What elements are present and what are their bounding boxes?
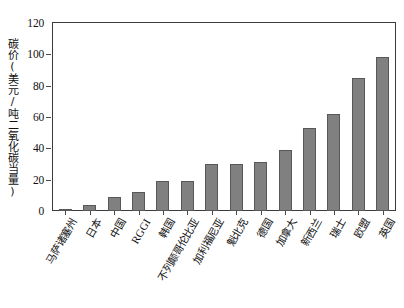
y-tick-mark	[46, 148, 51, 149]
x-tick-label: RGGI	[129, 217, 152, 246]
x-tick-label: 新西兰	[299, 217, 323, 248]
x-tick-mark	[310, 211, 311, 215]
bars-layer	[53, 23, 395, 211]
y-tick-mark	[46, 117, 51, 118]
x-tick-mark	[90, 211, 91, 215]
y-tick-label: 100	[27, 48, 44, 60]
x-tick-mark	[163, 211, 164, 215]
bar	[254, 162, 267, 211]
bar	[156, 181, 169, 211]
x-tick-mark	[139, 211, 140, 215]
y-axis-ticks: 020406080100120	[0, 0, 52, 308]
x-tick-mark	[383, 211, 384, 215]
x-tick-label: 中国	[108, 217, 127, 240]
x-tick-label: 魁北克	[225, 217, 249, 248]
x-tick-mark	[261, 211, 262, 215]
y-tick-mark	[46, 180, 51, 181]
x-tick-label: 英国	[377, 217, 396, 240]
y-tick-label: 40	[33, 142, 44, 154]
x-axis-labels: 马萨诸塞州日本中国RGGI韩国不列颠哥伦比亚加利福尼亚魁北克德国加拿大新西兰瑞士…	[53, 211, 395, 308]
x-tick-mark	[358, 211, 359, 215]
bar-chart: 碳价(美元/吨二氧化碳当量) 020406080100120 马萨诸塞州日本中国…	[0, 0, 404, 308]
bar	[132, 192, 145, 211]
y-tick-label: 80	[33, 80, 44, 92]
x-tick-label: 韩国	[157, 217, 176, 240]
y-tick-mark	[46, 54, 51, 55]
x-tick-mark	[65, 211, 66, 215]
x-tick-label: 加拿大	[274, 217, 298, 248]
y-tick-label: 120	[27, 17, 44, 29]
y-tick-label: 60	[33, 111, 44, 123]
bar	[352, 78, 365, 211]
y-tick-label: 20	[33, 174, 44, 186]
bar	[376, 57, 389, 211]
x-tick-mark	[114, 211, 115, 215]
bar	[108, 197, 121, 211]
x-tick-mark	[334, 211, 335, 215]
bar	[230, 164, 243, 211]
y-tick-mark	[46, 86, 51, 87]
bar	[205, 164, 218, 211]
x-tick-mark	[187, 211, 188, 215]
bar	[279, 150, 292, 211]
x-tick-mark	[212, 211, 213, 215]
x-tick-label: 日本	[84, 217, 103, 240]
x-tick-label: 德国	[255, 217, 274, 240]
x-tick-mark	[285, 211, 286, 215]
bar	[181, 181, 194, 211]
bar	[327, 114, 340, 211]
x-tick-label: 瑞士	[328, 217, 347, 240]
x-tick-label: 欧盟	[352, 217, 371, 240]
x-tick-mark	[236, 211, 237, 215]
y-tick-label: 0	[38, 205, 44, 217]
bar	[303, 128, 316, 211]
